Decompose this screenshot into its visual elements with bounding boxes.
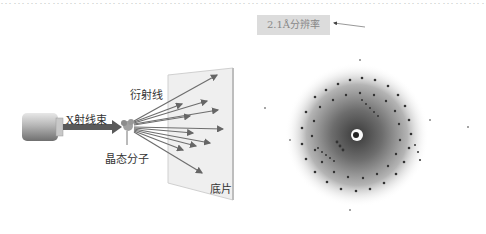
diffraction-pattern-image — [264, 59, 469, 211]
xray-tube-icon — [22, 113, 63, 141]
resolution-label: 2.1Å分辨率 — [257, 15, 330, 35]
xray-beam-label: X射线束 — [66, 111, 107, 127]
crystal-molecule-label: 晶态分子 — [105, 150, 149, 166]
film-label: 底片 — [210, 180, 232, 196]
resolution-pointer-arrow — [334, 23, 365, 27]
crystal-molecule-icon — [121, 119, 134, 145]
diffracted-rays-label: 衍射线 — [130, 86, 163, 102]
